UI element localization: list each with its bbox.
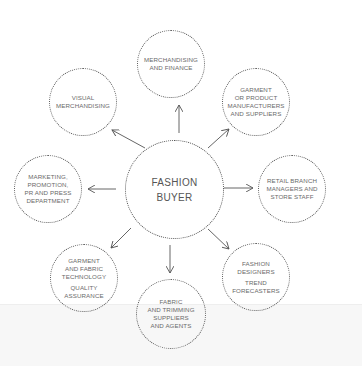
- node-label: MERCHANDISING: [56, 102, 110, 110]
- node-label: BUYER: [157, 190, 193, 205]
- node-garment-fabric-technology: GARMENT AND FABRIC TECHNOLOGY QUALITY AS…: [50, 244, 118, 312]
- node-label: STORE STAFF: [270, 193, 313, 201]
- node-label: RETAIL BRANCH: [267, 177, 317, 185]
- node-label: QUALITY: [70, 284, 97, 292]
- node-label: AND AGENTS: [151, 322, 192, 330]
- arrow-to-garment-fabric-tech: [111, 228, 131, 248]
- node-label: AND FABRIC: [65, 265, 103, 273]
- node-label: AND TRIMMING: [147, 306, 194, 314]
- node-fashion-buyer: FASHION BUYER: [125, 140, 224, 239]
- node-label: GARMENT: [240, 86, 272, 94]
- node-label: FABRIC: [160, 298, 183, 306]
- node-label: ASSURANCE: [64, 292, 103, 300]
- node-label: PROMOTION,: [28, 181, 69, 189]
- node-label: TREND: [245, 279, 267, 287]
- node-label: SUPPLIERS: [153, 314, 189, 322]
- node-label: DESIGNERS: [237, 268, 274, 276]
- node-garment-product-manufacturers: GARMENT OR PRODUCT MANUFACTURERS AND SUP…: [222, 68, 290, 136]
- node-label: GARMENT: [68, 257, 100, 265]
- node-label: MERCHANDISING: [144, 56, 198, 64]
- node-label: FORECASTERS: [232, 287, 280, 295]
- node-label: FASHION: [152, 175, 198, 190]
- node-fabric-trimming-suppliers: FABRIC AND TRIMMING SUPPLIERS AND AGENTS: [136, 279, 206, 349]
- node-label: MARKETING,: [28, 173, 68, 181]
- node-label: MANAGERS AND: [266, 185, 317, 193]
- node-label: OR PRODUCT: [235, 94, 278, 102]
- node-visual-merchandising: VISUAL MERCHANDISING: [49, 68, 117, 136]
- node-label: AND FINANCE: [149, 64, 192, 72]
- node-marketing-promotion-pr: MARKETING, PROMOTION, PR AND PRESS DEPAR…: [14, 155, 82, 223]
- node-label: PR AND PRESS: [25, 189, 72, 197]
- node-merchandising-finance: MERCHANDISING AND FINANCE: [137, 30, 205, 98]
- node-fashion-designers: FASHION DESIGNERS TREND FORECASTERS: [222, 243, 290, 311]
- node-label: AND SUPPLIERS: [231, 110, 282, 118]
- node-label: DEPARTMENT: [26, 197, 69, 205]
- node-label: FASHION: [242, 260, 270, 268]
- node-label: TECHNOLOGY: [62, 273, 106, 281]
- diagram-canvas: FASHION BUYER MERCHANDISING AND FINANCE …: [0, 0, 362, 366]
- arrow-to-fashion-designers: [208, 229, 229, 249]
- arrow-to-visual-merchandising: [112, 130, 145, 148]
- node-label: VISUAL: [72, 94, 95, 102]
- arrow-to-garment-product: [208, 129, 229, 148]
- node-retail-branch-managers: RETAIL BRANCH MANAGERS AND STORE STAFF: [258, 155, 326, 223]
- node-label: MANUFACTURERS: [228, 102, 285, 110]
